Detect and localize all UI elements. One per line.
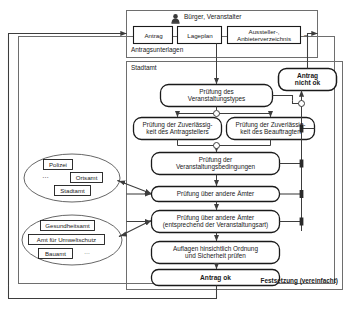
merge-marker <box>300 125 304 133</box>
doc-ellipsis: – <box>304 31 308 38</box>
org-item-label-bauamt: Bauamt <box>38 250 73 257</box>
function-box-f7 <box>152 242 280 264</box>
merge-marker <box>300 160 304 168</box>
doc-label-antrag: Antrag <box>133 32 174 39</box>
function-box-f5 <box>152 187 280 202</box>
link-f5-to-g1 <box>118 181 120 182</box>
function-box-f6 <box>152 211 280 233</box>
org-item-label-gesundheitsamt: Gesundheitsamt <box>40 222 95 229</box>
merge-marker <box>300 218 304 226</box>
link-f6-to-g2 <box>119 236 121 237</box>
org-item-label-umweltschutz: Amt für Umweltschutz <box>28 236 105 243</box>
function-box-f9 <box>279 69 337 91</box>
org-item-label-polizei: Polizei <box>43 161 73 168</box>
branch-f1-right <box>273 96 293 101</box>
function-box-f2 <box>134 118 222 140</box>
authority-frame-footer-caption: Festsetzung (vereinfacht) <box>200 277 338 284</box>
diagram-canvas: Bürger, Veranstalter Antrag Lageplan Aus… <box>0 0 351 314</box>
org-item-label-ortsamt: Ortsamt <box>70 174 103 181</box>
doc-label-lageplan: Lageplan <box>177 32 223 39</box>
authority-frame-caption: Stadtamt <box>131 64 157 71</box>
org-item-label-stadtamt: Stadtamt <box>54 187 91 194</box>
rail-junction <box>299 101 305 107</box>
doc-label-verzeichnis: Aussteller-, Anbieterverzeichnis <box>227 28 301 42</box>
link-g2-to-f6 <box>119 221 151 237</box>
actor-label: Bürger, Veranstalter <box>184 13 241 20</box>
function-box-f4 <box>152 153 280 175</box>
link-g1-to-f5 <box>118 181 152 194</box>
and-junction-join <box>214 143 220 149</box>
org-group-ellipsis-g2: … <box>84 249 91 255</box>
merge-marker <box>300 190 304 198</box>
antragsunterlagen-caption: Antragsunterlagen <box>131 46 183 53</box>
flow-f9-to-actor <box>308 34 318 69</box>
person-icon <box>171 14 179 24</box>
and-junction-split <box>214 111 220 117</box>
org-group-ellipsis-g1: … <box>42 172 50 179</box>
function-box-f1 <box>161 85 273 107</box>
